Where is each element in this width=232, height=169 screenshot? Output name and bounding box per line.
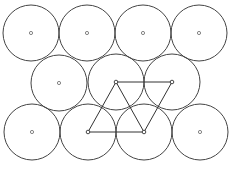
circle-center-dot <box>30 130 33 133</box>
circle-center-dot <box>197 31 200 34</box>
triangle-vertex <box>114 80 118 84</box>
triangle-vertex <box>86 130 90 134</box>
circle-packing-diagram <box>0 0 232 169</box>
triangle-vertex <box>142 130 146 134</box>
circle-center-dot <box>57 81 60 84</box>
triangle-edge <box>144 82 172 132</box>
circle-center-dot <box>85 31 88 34</box>
circle-center-dot <box>29 31 32 34</box>
triangle-edge <box>116 82 144 132</box>
circle-center-dot <box>141 31 144 34</box>
circle-center-dot <box>198 130 201 133</box>
triangle-edge <box>88 82 116 132</box>
triangle-vertex <box>170 80 174 84</box>
